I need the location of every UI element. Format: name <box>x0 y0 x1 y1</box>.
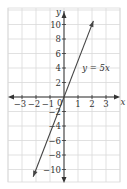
y-tick-label: −10 <box>43 165 61 175</box>
x-tick-label: 3 <box>103 99 108 109</box>
x-axis-label: x <box>121 97 126 107</box>
x-tick-label: −2 <box>28 99 41 109</box>
x-axis-right-arrow-icon <box>114 95 120 100</box>
y-axis-up-arrow-icon <box>62 12 67 18</box>
equation-label: y = 5x <box>81 63 110 73</box>
y-tick-label: −6 <box>48 136 61 146</box>
x-tick-label: 1 <box>75 99 80 109</box>
y-tick-label: −2 <box>48 107 61 117</box>
y-tick-label: 8 <box>56 34 61 44</box>
line-top-arrow-icon <box>89 21 93 27</box>
y-tick-label: 6 <box>56 49 61 59</box>
x-tick-label: −3 <box>14 99 27 109</box>
x-tick-label: 2 <box>89 99 94 109</box>
origin-label: 0 <box>57 98 62 108</box>
y-axis-label: y <box>55 7 61 17</box>
y-tick-label: 4 <box>56 63 61 73</box>
graph-of-y-equals-5x: −3−2−1123108642−2−4−6−8−10 y = 5x x y 0 <box>0 0 127 189</box>
line-bottom-arrow-icon <box>33 170 37 176</box>
y-tick-label: 2 <box>56 78 61 88</box>
y-tick-label: −8 <box>48 150 61 160</box>
y-tick-label: 10 <box>50 20 61 30</box>
